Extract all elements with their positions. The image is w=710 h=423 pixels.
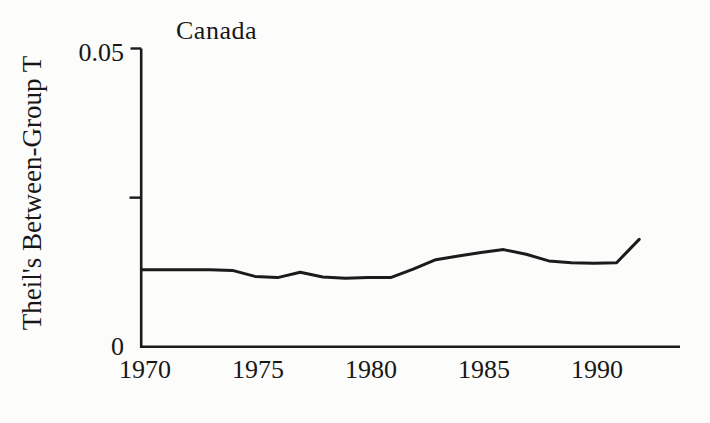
figure-canvas: Canada Theil's Between-Group T 0.05 0 19…: [0, 0, 710, 423]
canada-series-line: [142, 239, 639, 278]
plot-area: [0, 0, 710, 423]
